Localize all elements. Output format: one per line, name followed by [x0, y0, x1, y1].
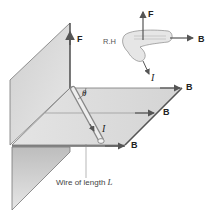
- wire-caption-var: L: [108, 177, 113, 187]
- field-label-hand: B: [198, 35, 205, 44]
- right-hand-label: R.H: [103, 38, 116, 46]
- current-label-wire: I: [102, 124, 105, 134]
- field-label-middle: B: [163, 108, 170, 117]
- wire-caption-prefix: Wire of length: [56, 178, 108, 187]
- right-hand-icon: [123, 12, 193, 74]
- force-label-plane: F: [77, 35, 83, 44]
- current-label-hand: I: [151, 73, 154, 83]
- angle-label: θ: [82, 89, 86, 98]
- force-label-hand: F: [148, 10, 154, 19]
- field-label-bottom: B: [131, 141, 138, 150]
- current-arrow-hand: [143, 61, 149, 74]
- wire-caption: Wire of length L: [56, 178, 113, 187]
- field-label-top: B: [186, 83, 193, 92]
